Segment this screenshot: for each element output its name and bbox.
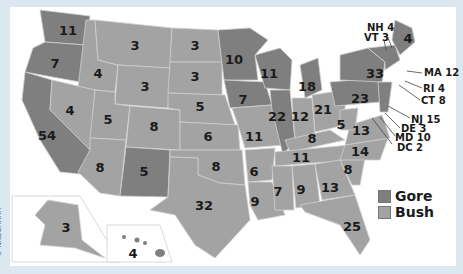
label-mi: 18 (298, 79, 316, 94)
label-co: 8 (149, 119, 158, 134)
label-me: 4 (403, 31, 412, 46)
label-ga: 13 (321, 180, 339, 195)
label-ok: 8 (211, 159, 220, 174)
label-wy: 3 (140, 79, 149, 94)
label-nc: 14 (351, 144, 369, 159)
label-il: 22 (268, 109, 286, 124)
label-wi: 11 (260, 66, 278, 81)
label-mn: 10 (225, 52, 243, 67)
label-nm: 5 (139, 164, 148, 179)
label-nv: 4 (65, 103, 74, 118)
label-ky: 8 (307, 131, 316, 146)
label-tn: 11 (292, 150, 310, 165)
label-ms: 7 (273, 184, 282, 199)
label-hi: 4 (128, 246, 137, 261)
label-ks: 6 (203, 129, 212, 144)
gore-swatch (378, 190, 391, 203)
label-sd: 3 (190, 69, 199, 84)
label-al: 9 (296, 182, 305, 197)
label-id: 4 (93, 66, 102, 81)
legend-item-bush: Bush (378, 204, 434, 220)
label-wv: 5 (336, 117, 345, 132)
label-la: 9 (250, 194, 259, 209)
label-mo: 11 (245, 129, 263, 144)
label-tx: 32 (195, 198, 213, 213)
callout-ri: RI 4 (423, 83, 445, 94)
callout-ma: MA 12 (424, 67, 459, 78)
callout-vt: VT 3 (364, 32, 389, 43)
label-ar: 6 (249, 164, 258, 179)
copyright-credit: © NKOCHARH (0, 207, 3, 256)
label-va: 13 (352, 123, 370, 138)
label-ny: 33 (366, 66, 384, 81)
label-pa: 23 (351, 91, 369, 106)
callout-dc: DC 2 (397, 142, 423, 153)
legend-label-gore: Gore (395, 188, 433, 204)
label-az: 8 (95, 160, 104, 175)
label-fl: 25 (343, 219, 361, 234)
label-in: 12 (291, 109, 309, 124)
label-ca: 54 (38, 128, 56, 143)
label-mt: 3 (130, 38, 139, 53)
label-ut: 5 (103, 112, 112, 127)
callout-ct: CT 8 (421, 95, 446, 106)
label-oh: 21 (314, 102, 332, 117)
bush-swatch (378, 206, 391, 219)
label-wa: 11 (59, 23, 77, 38)
label-ia: 7 (238, 92, 247, 107)
label-nd: 3 (190, 38, 199, 53)
legend-item-gore: Gore (378, 188, 434, 204)
label-ne: 5 (195, 99, 204, 114)
legend-label-bush: Bush (395, 204, 434, 220)
label-ak: 3 (61, 220, 70, 235)
label-or: 7 (50, 56, 59, 71)
label-sc: 8 (343, 162, 352, 177)
legend: Gore Bush (378, 188, 434, 220)
us-electoral-map: 11 7 54 4 4 3 3 5 8 8 5 3 3 5 6 8 32 10 … (0, 0, 463, 274)
state-nj-md-de (378, 82, 392, 112)
